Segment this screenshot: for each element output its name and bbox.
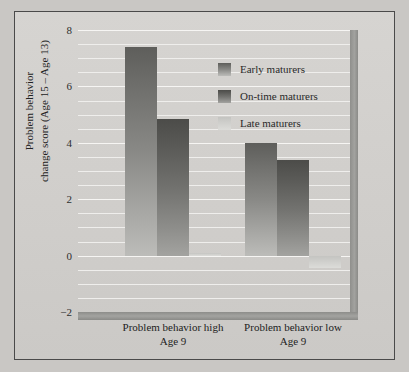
axis-right-wall [350,30,358,312]
gridline [78,44,350,45]
y-tick-label: 6 [67,80,73,92]
gridline [78,30,350,31]
chart-figure: Problem behavior change score (Age 15 – … [0,0,409,372]
gridline [78,199,350,200]
gridline [78,185,350,186]
legend-label: On-time maturers [240,90,318,102]
bar-early-group-2 [245,143,277,256]
y-axis-title-line2: change score (Age 15 – Age 13) [37,11,52,211]
y-tick-label: −2 [60,306,72,318]
bar-ontime-group-2 [277,160,309,256]
x-category-line1: Problem behavior low [203,320,383,334]
gridline [78,227,350,228]
bar-late-group-2 [309,256,341,269]
gridline [78,171,350,172]
axis-floor [78,312,358,320]
bar-late-group-1 [189,253,221,256]
gridline [78,298,350,299]
gridline [78,143,350,144]
gridline [78,284,350,285]
y-tick-label: 8 [67,24,73,36]
gridline [78,213,350,214]
legend-label: Early maturers [240,63,305,75]
bar-ontime-group-1 [157,119,189,256]
y-axis-ticks: 86420−2 [52,30,72,312]
chart-legend: Early maturersOn-time maturersLate matur… [218,59,348,140]
y-tick-label: 4 [67,137,73,149]
y-tick-label: 2 [67,193,73,205]
legend-item[interactable]: Early maturers [218,59,348,79]
legend-swatch-early [218,63,231,76]
gridline [78,242,350,243]
legend-swatch-ontime [218,90,231,103]
legend-swatch-late [218,117,231,130]
gridline [78,157,350,158]
y-tick-label: 0 [67,250,73,262]
gridline [78,270,350,271]
legend-label: Late maturers [240,117,301,129]
legend-item[interactable]: On-time maturers [218,86,348,106]
x-category-label: Problem behavior lowAge 9 [203,320,383,348]
x-category-line2: Age 9 [203,334,383,348]
bar-early-group-1 [125,47,157,256]
y-axis-title-line1: Problem behavior [22,11,37,211]
y-axis-title: Problem behavior change score (Age 15 – … [22,11,52,211]
legend-item[interactable]: Late maturers [218,113,348,133]
